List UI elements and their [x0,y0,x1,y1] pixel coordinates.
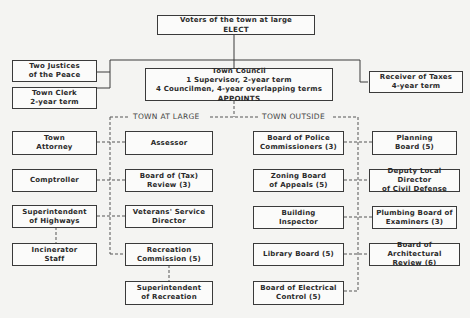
justices-box: Two Justices of the Peace [12,60,97,82]
highways-line-1: Superintendent [22,208,87,217]
justices-line-2: of the Peace [29,71,81,80]
recreation-supt-line-2: of Recreation [141,293,197,302]
building-line-1: Building [281,209,315,218]
veterans-line-1: Veterans' Service [133,208,205,217]
veterans-line-2: Director [152,217,186,226]
recreation-comm-line-2: Commission (5) [137,255,201,264]
plumbing-board-of-examiners-box: Plumbing Board of Examiners (3) [372,206,457,229]
zoning-board-of-appeals-box: Zoning Board of Appeals (5) [253,169,344,192]
clerk-line-2: 2-year term [30,98,79,107]
receiver-line-1: Receiver of Taxes [380,73,452,82]
highways-line-2: of Highways [29,217,79,226]
assessor-line-1: Assessor [151,139,188,148]
superintendent-of-recreation-box: Superintendent of Recreation [125,281,213,305]
incinerator-staff-box: Incinerator Staff [12,243,97,266]
incinerator-line-2: Staff [44,255,64,264]
town-outside-label: TOWN OUTSIDE [260,112,327,121]
attorney-line-1: Town [44,134,65,143]
planning-board-box: Planning Board (5) [372,131,457,155]
voters-label: Voters of the town at large [180,16,292,25]
council-line-3: 4 Councilmen, 4-year overlapping terms [156,85,322,94]
planning-line-2: Board (5) [395,143,434,152]
plumbing-line-1: Plumbing Board of [376,209,453,218]
incinerator-line-1: Incinerator [32,246,78,255]
justices-line-1: Two Justices [29,62,80,71]
plumbing-line-2: Examiners (3) [386,218,443,227]
recreation-supt-line-1: Superintendent [137,284,202,293]
civil-defense-line-1: Deputy Local Director [370,167,459,185]
town-clerk-box: Town Clerk 2-year term [12,87,97,109]
deputy-director-civil-defense-box: Deputy Local Director of Civil Defense [369,169,460,192]
building-line-2: Inspector [279,218,318,227]
town-attorney-box: Town Attorney [12,131,97,155]
police-line-2: Commissioners (3) [260,143,337,152]
architectural-line-2: Review (6) [392,259,436,268]
architectural-line-1: Board of Architectural [370,241,459,259]
planning-line-1: Planning [396,134,432,143]
recreation-comm-line-1: Recreation [147,246,192,255]
comptroller-line-1: Comptroller [30,176,79,185]
recreation-commission-box: Recreation Commission (5) [125,243,213,266]
civil-defense-line-2: of Civil Defense [382,185,447,194]
attorney-line-2: Attorney [36,143,72,152]
library-board-box: Library Board (5) [253,243,344,266]
clerk-line-1: Town Clerk [32,89,77,98]
zoning-line-1: Zoning Board [271,172,326,181]
town-council-box: Town Council 1 Supervisor, 2-year term 4… [145,68,333,101]
connector-lines [0,0,470,318]
voters-box: Voters of the town at large ELECT [157,15,315,35]
superintendent-of-highways-box: Superintendent of Highways [12,205,97,228]
electrical-line-1: Board of Electrical [260,284,336,293]
building-inspector-box: Building Inspector [253,206,344,229]
board-of-tax-review-box: Board of (Tax) Review (3) [125,169,213,192]
zoning-line-2: of Appeals (5) [269,181,327,190]
elect-label: ELECT [223,25,249,34]
board-of-electrical-control-box: Board of Electrical Control (5) [253,281,344,305]
town-at-large-label: TOWN AT LARGE [131,112,202,121]
tax-review-line-1: Board of (Tax) [140,172,198,181]
board-of-police-commissioners-box: Board of Police Commissioners (3) [253,131,344,155]
library-line-1: Library Board (5) [263,250,334,259]
receiver-line-2: 4-year term [392,82,441,91]
council-line-1: Town Council [212,67,266,76]
tax-review-line-2: Review (3) [147,181,191,190]
police-line-1: Board of Police [267,134,330,143]
appoints-label: APPOINTS [218,94,261,103]
electrical-line-2: Control (5) [276,293,321,302]
board-of-architectural-review-box: Board of Architectural Review (6) [369,243,460,266]
council-line-2: 1 Supervisor, 2-year term [186,76,292,85]
veterans-service-director-box: Veterans' Service Director [125,205,213,228]
comptroller-box: Comptroller [12,169,97,192]
assessor-box: Assessor [125,131,213,155]
receiver-of-taxes-box: Receiver of Taxes 4-year term [369,71,463,93]
